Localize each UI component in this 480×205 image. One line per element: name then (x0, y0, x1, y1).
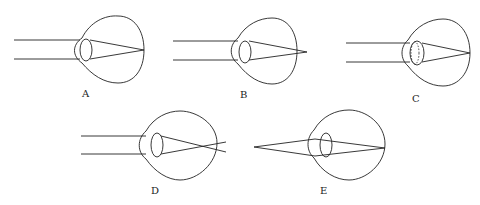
panel-label-b: B (240, 89, 247, 100)
eye-diagrams: A B C D E (0, 0, 480, 205)
eye-panel-b: B (173, 18, 307, 100)
panel-label-d: D (151, 185, 159, 196)
eyeball-outline (75, 16, 145, 83)
eye-panel-c: C (346, 19, 470, 104)
eye-panel-a: A (14, 16, 144, 99)
panel-label-e: E (320, 185, 327, 196)
panel-label-a: A (81, 88, 90, 99)
eyeball-outline (231, 18, 297, 84)
eye-panel-d: D (81, 111, 226, 196)
eyeball-outline (402, 19, 470, 86)
lens (80, 39, 92, 61)
lens (151, 133, 163, 157)
lens (320, 133, 332, 157)
lens-accommodation-outline (411, 42, 419, 64)
panel-label-c: C (412, 93, 420, 104)
eye-panel-e: E (254, 110, 385, 196)
